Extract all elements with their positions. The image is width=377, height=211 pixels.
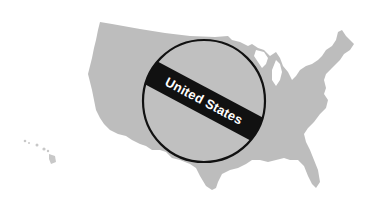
hawaii-islands [24, 140, 56, 164]
us-map-figure: United States [0, 0, 377, 211]
